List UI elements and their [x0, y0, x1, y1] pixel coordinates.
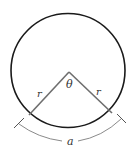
radius-left: [29, 72, 69, 115]
circle: [11, 14, 125, 128]
angle-label: θ: [66, 78, 73, 91]
arc-dimension-right: [78, 119, 121, 141]
radius-left-label: r: [37, 88, 43, 99]
arc-length-label: a: [67, 135, 74, 148]
radius-right: [69, 72, 112, 113]
radius-right-label: r: [96, 86, 102, 97]
circle-sector-diagram: θ r r a: [0, 0, 135, 153]
